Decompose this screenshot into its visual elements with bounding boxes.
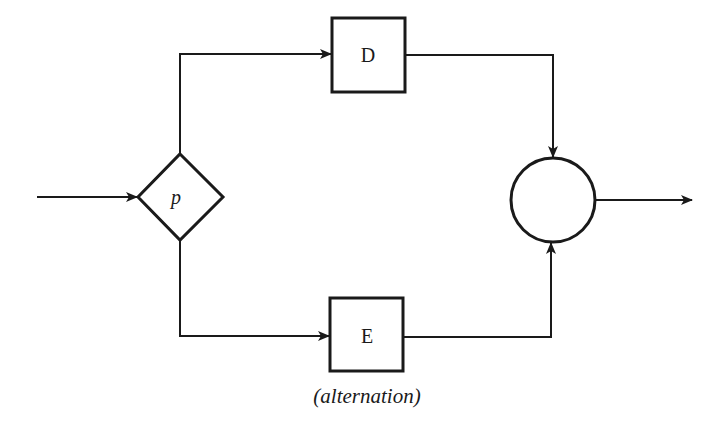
box-e-label: E xyxy=(361,325,373,347)
caption: (alternation) xyxy=(313,384,420,408)
junction-circle xyxy=(511,158,595,242)
edge-e-to-junction xyxy=(404,243,551,337)
edge-d-to-junction xyxy=(406,55,553,157)
box-d-label: D xyxy=(361,44,375,66)
alternation-flowchart: p D E (alternation) xyxy=(0,0,726,441)
edge-decision-to-d xyxy=(180,54,331,154)
edge-decision-to-e xyxy=(180,240,329,336)
decision-label: p xyxy=(169,186,181,209)
